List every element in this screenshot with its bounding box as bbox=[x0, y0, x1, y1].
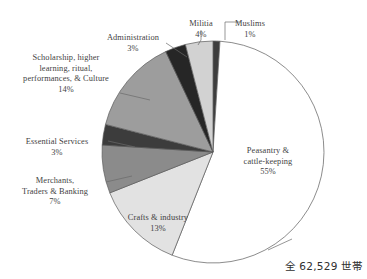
slice-label-merchants-name: Merchants, Traders & Banking bbox=[22, 176, 88, 196]
slice-label-crafts-name: Crafts & industry bbox=[128, 213, 188, 222]
slice-label-muslims-name: Muslims bbox=[235, 19, 265, 28]
slice-label-merchants-pct: 7% bbox=[6, 197, 104, 208]
slice-label-muslims: Muslims 1% bbox=[222, 8, 278, 51]
slice-label-peasantry: Peasantry & cattle-keeping 55% bbox=[224, 135, 312, 189]
slice-label-scholarship-pct: 14% bbox=[8, 85, 124, 96]
slice-label-essential-services-pct: 3% bbox=[9, 148, 105, 159]
slice-label-essential-services-name: Essential Services bbox=[26, 137, 89, 146]
slice-label-scholarship: Scholarship, higher learning, ritual, pe… bbox=[8, 42, 124, 107]
slice-label-peasantry-pct: 55% bbox=[224, 167, 312, 178]
slice-label-administration-name: Administration bbox=[107, 33, 159, 42]
slice-label-merchants: Merchants, Traders & Banking 7% bbox=[6, 165, 104, 219]
slice-label-militia-pct: 4% bbox=[176, 30, 226, 41]
slice-label-crafts: Crafts & industry 13% bbox=[112, 202, 204, 245]
slice-label-militia-name: Militia bbox=[189, 19, 213, 28]
slice-label-peasantry-name: Peasantry & cattle-keeping bbox=[244, 146, 293, 166]
slice-label-militia: Militia 4% bbox=[176, 8, 226, 51]
slice-label-muslims-pct: 1% bbox=[222, 30, 278, 41]
slice-label-essential-services: Essential Services 3% bbox=[9, 126, 105, 169]
pie-chart-figure: Muslims 1% Militia 4% Administration 3% … bbox=[0, 0, 367, 279]
slice-label-scholarship-name: Scholarship, higher learning, ritual, pe… bbox=[23, 53, 109, 84]
total-households-note: 全 62,529 世帯 bbox=[285, 258, 362, 273]
slice-label-crafts-pct: 13% bbox=[112, 224, 204, 235]
